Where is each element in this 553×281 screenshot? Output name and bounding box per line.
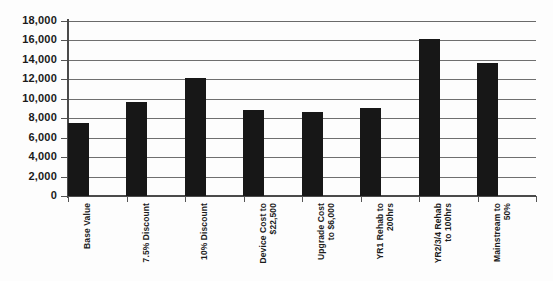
x-tick-label: YR2/3/4 Rehab to 100hrs (433, 203, 453, 281)
x-tick-label: Device Cost to $22,500 (258, 203, 278, 281)
y-tick-label: 6,000 (0, 131, 57, 143)
y-tick-label: 14,000 (0, 53, 57, 65)
x-tick-label: YR1 Rehab to 200hrs (375, 203, 395, 281)
x-tick-label: 7.5% Discount (141, 203, 151, 281)
x-tick-mark (478, 196, 479, 202)
y-tick-label: 16,000 (0, 33, 57, 45)
x-tick-mark (244, 196, 245, 202)
x-tick-mark (419, 196, 420, 202)
bar-series (68, 21, 536, 196)
y-tick-label: 2,000 (0, 170, 57, 182)
y-tick-label: 18,000 (0, 14, 57, 26)
y-tick-label: 4,000 (0, 150, 57, 162)
x-tick-mark (127, 196, 128, 202)
bar (68, 123, 89, 196)
bar (302, 112, 323, 196)
x-tick-label: Mainstream to 50% (492, 203, 512, 281)
y-tick-label: 12,000 (0, 72, 57, 84)
bar (185, 78, 206, 196)
x-tick-mark (68, 196, 69, 202)
bar (477, 63, 498, 196)
x-tick-mark (302, 196, 303, 202)
bar-chart-figure: 02,0004,0006,0008,00010,00012,00014,0001… (0, 0, 553, 281)
y-tick-label: 0 (0, 189, 57, 201)
x-tick-mark (185, 196, 186, 202)
bar (243, 110, 264, 196)
x-tick-label: 10% Discount (199, 203, 209, 281)
x-tick-mark (536, 196, 537, 202)
bar (360, 108, 381, 196)
bar (419, 39, 440, 196)
x-tick-label: Base Value (82, 203, 92, 281)
x-tick-label: Upgrade Cost to $6,000 (316, 203, 336, 281)
x-tick-mark (361, 196, 362, 202)
y-tick-label: 8,000 (0, 111, 57, 123)
y-tick-label: 10,000 (0, 92, 57, 104)
bar (126, 102, 147, 196)
